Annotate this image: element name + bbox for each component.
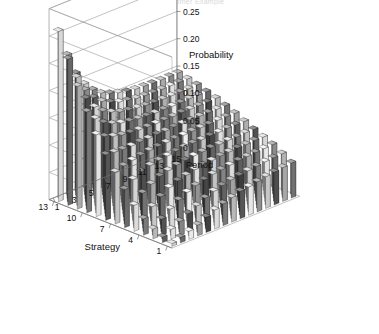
- axis-tick-label: Strategy: [85, 241, 121, 252]
- bar-front: [240, 190, 245, 219]
- bar-front: [291, 161, 296, 198]
- bar-front: [257, 180, 262, 212]
- axis-tick-label: 15: [172, 154, 182, 164]
- axis-tick-label: 7: [106, 181, 111, 191]
- bar-front: [266, 175, 271, 209]
- axis-tick-label: 11: [138, 167, 147, 177]
- axis-tick-label: 5: [89, 188, 94, 198]
- bar-front: [77, 85, 82, 210]
- axis-tick-label: 0.05: [183, 116, 200, 126]
- bar-front: [248, 185, 253, 215]
- bar-front: [179, 220, 184, 236]
- axis-tick-label: 0: [183, 143, 188, 153]
- bar-front: [143, 217, 148, 235]
- bar-front: [68, 57, 73, 205]
- axis-tick-label: 1: [157, 246, 162, 256]
- bar-front: [197, 223, 202, 236]
- axis-tick-label: 13: [155, 161, 165, 171]
- axis-tick-label: 0.15: [183, 61, 200, 71]
- chart-figure: (b) Another Example 00.050.100.150.200.2…: [0, 0, 379, 334]
- bar3d-plot: 00.050.100.150.200.250.300.35Probability…: [0, 0, 379, 334]
- bar-front: [283, 166, 288, 202]
- axis-tick-label: 13: [38, 202, 48, 212]
- bar-front: [274, 170, 279, 205]
- axis-tick-label: 7: [100, 224, 105, 234]
- bar-front: [134, 203, 139, 231]
- bar-front: [206, 215, 211, 232]
- axis-tick-label: 10: [67, 213, 77, 223]
- bar-front: [231, 196, 236, 222]
- axis-tick-label: 1: [55, 202, 60, 212]
- axis-tick-label: 0.20: [183, 34, 200, 44]
- axis-tick-label: 0.25: [183, 7, 200, 17]
- axis-tick-label: 9: [123, 174, 128, 184]
- bar-front: [58, 30, 63, 202]
- bar-front: [115, 170, 120, 224]
- bar-front: [125, 188, 130, 228]
- bar-front: [214, 208, 219, 229]
- axis-tick-label: 3: [72, 195, 77, 205]
- bar-front: [161, 217, 166, 235]
- axis-tick-label: Period: [186, 159, 213, 170]
- axis-tick-label: Probability: [189, 49, 234, 60]
- bar-front: [96, 133, 101, 217]
- axis-tick-label: 4: [128, 235, 133, 245]
- axis-tick-label: 0.10: [183, 88, 200, 98]
- bar-front: [223, 202, 228, 226]
